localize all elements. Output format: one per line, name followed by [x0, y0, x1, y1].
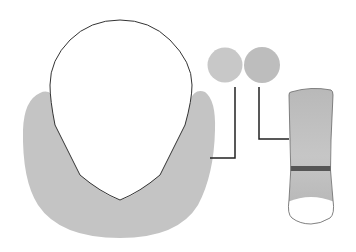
vertical-bar	[285, 85, 337, 227]
diagram-canvas	[0, 0, 356, 252]
diagram-svg	[0, 0, 356, 252]
swatch-right	[244, 47, 280, 83]
swatch-left	[208, 48, 243, 83]
bar-band	[285, 166, 337, 171]
callout-right	[259, 87, 289, 139]
bar-bottom	[285, 197, 337, 227]
